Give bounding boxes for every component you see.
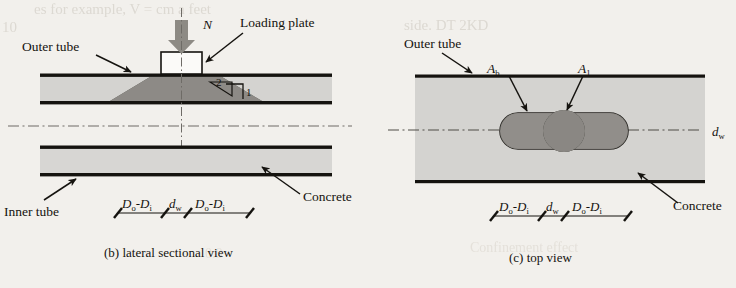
inner-tube-label: Inner tube [4, 204, 59, 219]
dimension-c-1: Do-Di [498, 199, 529, 216]
lower-concrete-texture [40, 148, 332, 174]
caption-panel-c: (c) top view [509, 250, 572, 265]
dimension-b-1: Do-Di [121, 196, 152, 213]
bleed-line-2: 10 [2, 19, 17, 35]
top-view-outer-tube-edge-bottom [415, 180, 705, 183]
bleed-line-3: side. DT 2KD [404, 17, 488, 33]
outer-tube-label-b: Outer tube [22, 39, 79, 54]
bearing-area-capsule [500, 110, 628, 152]
load-symbol-label: N [202, 17, 213, 32]
concrete-label-c: Concrete [673, 198, 722, 213]
inner-tube-wall-top [40, 101, 332, 104]
lower-concrete-band [40, 146, 332, 177]
slope-run-label: 1 [246, 86, 252, 98]
bleed-line-1: es for example, V = cm a feet [34, 1, 212, 17]
top-view-outer-tube-edge-top [415, 75, 705, 78]
core-A1-grain [543, 110, 585, 152]
slope-rise-label: 2 [216, 76, 222, 88]
inner-tube-wall-bottom [40, 146, 332, 149]
dimension-c-3: Do-Di [571, 199, 602, 216]
concrete-label-b: Concrete [303, 189, 352, 204]
caption-panel-b: (b) lateral sectional view [104, 245, 233, 260]
engineering-figure: es for example, V = cm a feet 10 side. D… [0, 0, 736, 288]
outer-tube-wall-bottom [40, 173, 332, 176]
dimension-b-3: Do-Di [194, 196, 225, 213]
outer-tube-label-c: Outer tube [404, 36, 461, 51]
figure-container: es for example, V = cm a feet 10 side. D… [0, 0, 736, 288]
loading-plate-label: Loading plate [240, 15, 315, 30]
